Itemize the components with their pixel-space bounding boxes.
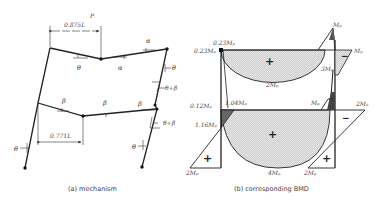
right-column [142,49,167,167]
plus-sign: + [265,55,274,68]
moment-label: 1.16Mₚ [195,121,218,128]
moment-label: 2Mₚ [355,100,369,107]
base-hinge [23,166,26,169]
moment-label: 2Mₚ [265,81,279,88]
moment-label: 1.04Mₚ [225,99,248,106]
beta-label: β [61,97,66,105]
upper-beam [50,48,167,59]
column-dark-fill [327,92,335,110]
theta-plus-beta-label: θ+β [165,84,178,92]
plastic-hinge [154,104,157,107]
left-column [25,48,50,168]
moment-label: 0.23Mₚ [213,39,236,46]
moment-label: 2Mₚ [303,169,317,176]
angle-wedge [152,82,160,92]
plus-sign: + [268,128,277,141]
caption-b: (b) corresponding BMD [234,185,309,193]
plus-sign: + [203,152,212,165]
plastic-hinge [156,108,159,111]
plus-sign: + [322,152,331,165]
moment-label: 2Mₚ [185,169,199,176]
moment-label: Mₚ [332,21,342,28]
moment-label: 3Mₚ [321,65,334,72]
dimension-bottom-label: 0.771L [50,132,71,139]
minus-sign: − [342,113,350,123]
moment-label: 0.12Mₚ [190,102,213,109]
beta-label: β [137,100,142,108]
theta-label: θ [77,64,81,72]
minus-sign: − [341,51,349,61]
mechanism-panel: P 0.875L θ α α θ θ+β θ+β θ β β [14,12,178,193]
moment-label: 4Mₚ [267,169,281,176]
theta-plus-beta-label: θ+β [163,119,176,127]
moment-label: Mₚ [310,99,320,106]
joint-block [219,48,223,52]
figure-canvas: P 0.875L θ α α θ θ+β θ+β θ β β [0,0,381,201]
bmd-panel: + + − − + + 0.23Mₚ 0.23Mₚ Mₚ Mₚ 2Mₚ 3Mₚ [185,21,369,193]
moment-label: 0.23Mₚ [194,47,217,54]
moment-label: Mₚ [353,47,363,54]
load-label: P [89,12,95,19]
dimension-top-label: 0.875L [64,21,85,28]
plastic-hinge [165,47,168,50]
theta-label: θ [132,143,136,151]
base-hinge [140,165,143,168]
beta-label: β [102,99,107,107]
theta-label: θ [172,64,176,72]
theta-label: θ [14,145,18,153]
alpha-label: α [146,37,151,45]
caption-a: (a) mechanism [68,185,117,193]
alpha-label: α [118,64,123,72]
